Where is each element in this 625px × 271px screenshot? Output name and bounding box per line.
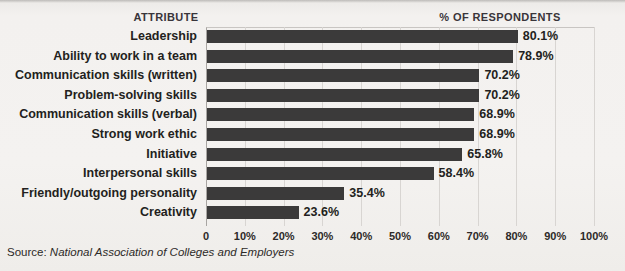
x-tick-label: 50%	[389, 228, 411, 244]
bar-row: 78.9%	[207, 47, 595, 67]
bar-value-label: 58.4%	[434, 164, 474, 184]
category-label: Problem-solving skills	[64, 86, 197, 106]
bar-value-label: 68.9%	[474, 125, 514, 145]
bar	[207, 148, 462, 161]
x-tick-label: 30%	[311, 228, 333, 244]
bar-chart-figure: ATTRIBUTE % OF RESPONDENTS LeadershipAbi…	[0, 0, 625, 271]
x-tick-label: 20%	[273, 228, 295, 244]
category-label: Friendly/outgoing personality	[21, 184, 197, 204]
category-label: Interpersonal skills	[83, 164, 197, 184]
category-label: Communication skills (written)	[15, 66, 197, 86]
x-tick-label: 90%	[544, 228, 566, 244]
bar-row: 70.2%	[207, 66, 595, 86]
category-label: Leadership	[130, 27, 197, 47]
category-label: Strong work ethic	[91, 125, 197, 145]
category-label: Ability to work in a team	[53, 47, 197, 67]
category-label: Initiative	[146, 145, 197, 165]
bar-row: 70.2%	[207, 86, 595, 106]
category-label: Communication skills (verbal)	[19, 105, 197, 125]
x-axis-tick-labels: 010%20%30%40%50%60%70%80%90%100%	[206, 228, 606, 244]
bar-value-label: 23.6%	[299, 203, 339, 223]
source-label: Source:	[7, 246, 47, 258]
bar	[207, 108, 474, 121]
bar-row: 23.6%	[207, 203, 595, 223]
x-tick-label: 80%	[505, 228, 527, 244]
x-tick-label: 40%	[350, 228, 372, 244]
bar	[207, 50, 513, 63]
category-label: Creativity	[140, 203, 197, 223]
bar	[207, 206, 299, 219]
bar	[207, 128, 474, 141]
x-tick-label: 60%	[428, 228, 450, 244]
source-note: Source: National Association of Colleges…	[7, 246, 294, 258]
column-header-row: ATTRIBUTE % OF RESPONDENTS	[0, 9, 625, 25]
bar	[207, 30, 518, 43]
bar	[207, 69, 479, 82]
bar	[207, 167, 434, 180]
respondents-column-header: % OF RESPONDENTS	[420, 9, 580, 25]
x-tick-label: 70%	[467, 228, 489, 244]
scan-artifact-line	[0, 0, 625, 3]
bar-value-label: 70.2%	[479, 86, 519, 106]
bar-row: 80.1%	[207, 27, 595, 47]
category-axis-labels: LeadershipAbility to work in a teamCommu…	[0, 27, 202, 227]
plot-area: 80.1%78.9%70.2%70.2%68.9%68.9%65.8%58.4%…	[206, 27, 594, 226]
bar-row: 68.9%	[207, 105, 595, 125]
bar-row: 35.4%	[207, 184, 595, 204]
bar	[207, 187, 344, 200]
bar-value-label: 35.4%	[344, 184, 384, 204]
bar-value-label: 80.1%	[518, 27, 558, 47]
chart-body: LeadershipAbility to work in a teamCommu…	[0, 27, 625, 230]
bar-value-label: 65.8%	[462, 145, 502, 165]
bar-value-label: 78.9%	[513, 47, 553, 67]
bar-row: 65.8%	[207, 145, 595, 165]
x-tick-label: 10%	[234, 228, 256, 244]
x-tick-label: 0	[203, 228, 209, 244]
source-value: National Association of Colleges and Emp…	[50, 246, 294, 258]
bar-row: 68.9%	[207, 125, 595, 145]
attribute-column-header: ATTRIBUTE	[110, 9, 222, 25]
bar-value-label: 70.2%	[479, 66, 519, 86]
bar-row: 58.4%	[207, 164, 595, 184]
bar-value-label: 68.9%	[474, 105, 514, 125]
bar	[207, 89, 479, 102]
x-tick-label: 100%	[580, 228, 608, 244]
